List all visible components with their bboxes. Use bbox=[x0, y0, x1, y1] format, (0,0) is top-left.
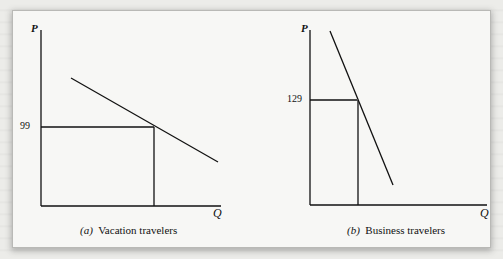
chart-b-caption-letter: (b) bbox=[347, 224, 360, 236]
chart-a-vacation bbox=[41, 30, 221, 206]
chart-b-demand-curve bbox=[330, 31, 393, 185]
chart-a-caption: (a) Vacation travelers bbox=[80, 224, 177, 236]
chart-b-p-axis-label: P bbox=[301, 22, 308, 34]
chart-a-caption-letter: (a) bbox=[80, 224, 93, 236]
chart-b-price-tick: 129 bbox=[287, 93, 302, 104]
chart-a-demand-curve bbox=[71, 78, 218, 162]
chart-b-caption: (b) Business travelers bbox=[347, 224, 445, 236]
chart-b-q-axis-label: Q bbox=[480, 206, 489, 221]
chart-lines bbox=[0, 0, 503, 259]
chart-a-q-axis-label: Q bbox=[213, 206, 222, 221]
chart-a-p-axis-label: P bbox=[31, 22, 38, 34]
chart-b-business bbox=[310, 30, 487, 205]
chart-b-caption-text: Business travelers bbox=[365, 224, 445, 236]
chart-a-caption-text: Vacation travelers bbox=[98, 224, 177, 236]
chart-a-price-tick: 99 bbox=[20, 120, 30, 131]
